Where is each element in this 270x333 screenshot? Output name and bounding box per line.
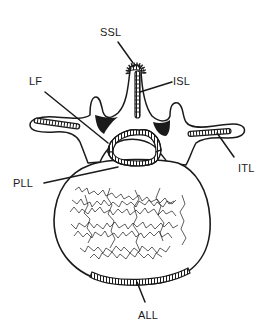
label-isl: ISL — [173, 76, 190, 87]
label-itl: ITL — [238, 163, 255, 174]
vertebral-body — [54, 159, 210, 284]
isl-leader — [140, 82, 172, 92]
label-ssl: SSL — [100, 27, 121, 38]
label-lf: LF — [29, 76, 42, 87]
ssl-leader — [118, 42, 133, 63]
vertebra-ligament-diagram: SSL ISL LF ITL PLL ALL — [0, 0, 270, 333]
label-all: ALL — [138, 310, 158, 321]
diagram-drawing — [0, 0, 270, 333]
label-pll: PLL — [13, 178, 33, 189]
isl-band — [135, 71, 140, 118]
